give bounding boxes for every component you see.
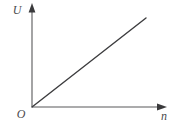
y-axis-arrowhead-icon (29, 3, 36, 13)
graph-canvas: U n O (0, 0, 174, 122)
origin-label: O (17, 107, 26, 121)
data-line-u-vs-n (32, 18, 146, 107)
graph-figure: U n O (0, 0, 174, 122)
x-axis-label: n (161, 109, 167, 122)
y-axis-label: U (13, 3, 23, 17)
